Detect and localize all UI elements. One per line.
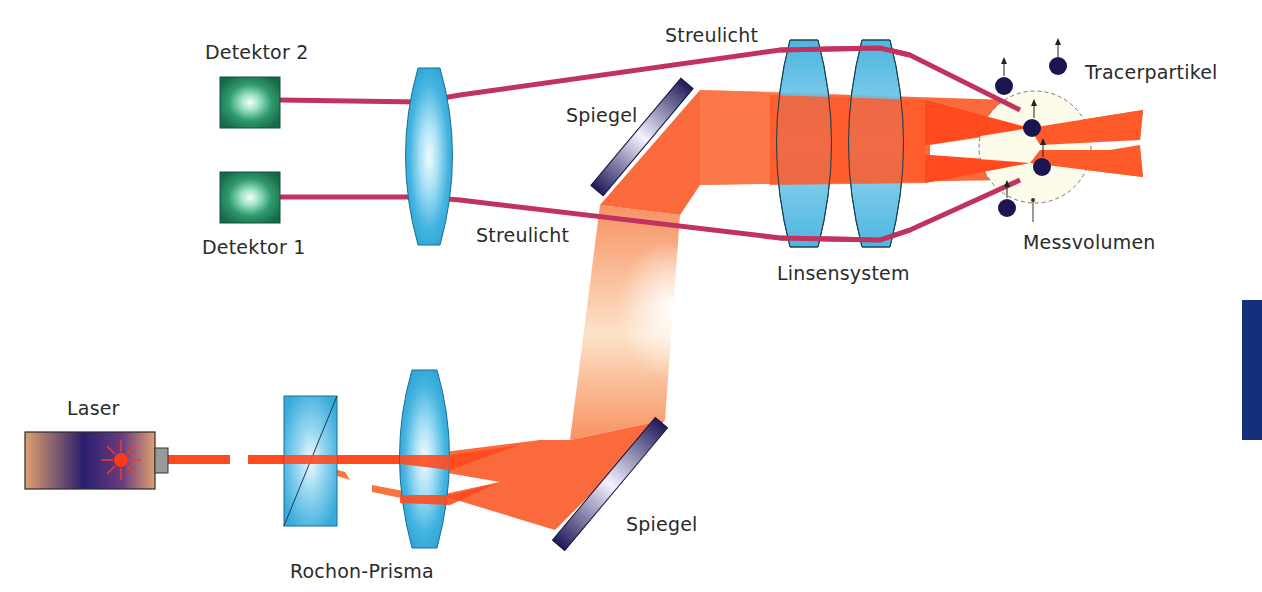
detector-2-icon <box>220 77 280 128</box>
receiving-lens-icon <box>406 68 453 245</box>
label-streulicht-top: Streulicht <box>665 24 758 46</box>
label-tracerpartikel: Tracerpartikel <box>1085 61 1218 83</box>
rochon-prism-icon <box>284 396 337 526</box>
label-linsensystem: Linsensystem <box>777 262 910 284</box>
ldv-optical-diagram <box>0 0 1262 592</box>
laser-source-icon <box>25 432 168 489</box>
label-laser: Laser <box>67 397 120 419</box>
label-streulicht-bottom: Streulicht <box>476 224 569 246</box>
label-detektor-1: Detektor 1 <box>202 236 305 258</box>
lens-system-icon <box>770 40 925 247</box>
label-rochon-prisma: Rochon-Prisma <box>290 560 434 582</box>
label-messvolumen: Messvolumen <box>1023 231 1156 253</box>
side-tab <box>1242 300 1262 440</box>
tracer-particle-icon <box>1049 38 1067 75</box>
label-spiegel-top: Spiegel <box>566 104 638 126</box>
label-spiegel-bottom: Spiegel <box>626 513 698 535</box>
label-detektor-2: Detektor 2 <box>205 41 308 63</box>
tracer-particle-icon <box>995 57 1013 95</box>
detector-1-icon <box>220 172 280 223</box>
